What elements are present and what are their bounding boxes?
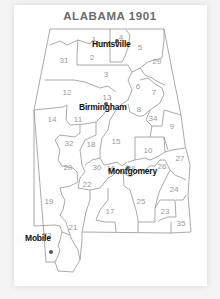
city-label-montgomery: Montgomery: [108, 166, 157, 176]
district-label-27: 27: [176, 154, 185, 163]
district-label-26: 26: [158, 162, 167, 171]
district-label-6: 6: [136, 82, 140, 91]
district-label-31: 31: [60, 56, 69, 65]
district-label-29: 29: [153, 57, 162, 66]
district-label-20: 20: [64, 163, 73, 172]
district-label-13: 13: [103, 93, 112, 102]
district-label-8: 8: [137, 105, 141, 114]
district-label-5: 5: [138, 43, 142, 52]
district-label-25: 25: [137, 197, 146, 206]
district-label-18: 18: [87, 140, 96, 149]
district-label-11: 11: [74, 115, 82, 124]
district-label-7: 7: [152, 88, 156, 97]
district-label-15: 15: [112, 137, 121, 146]
district-label-14: 14: [48, 115, 57, 124]
city-label-birmingham: Birmingham: [79, 102, 127, 112]
city-label-huntsville: Huntsville: [92, 39, 131, 49]
district-label-23: 23: [161, 207, 170, 216]
city-label-mobile: Mobile: [25, 233, 51, 243]
district-label-12: 12: [63, 88, 72, 97]
district-label-24: 24: [170, 185, 179, 194]
district-label-19: 19: [45, 197, 54, 206]
district-label-34: 34: [149, 114, 158, 123]
district-label-22: 22: [83, 180, 92, 189]
district-label-2: 2: [90, 53, 94, 62]
district-label-32: 32: [65, 139, 74, 148]
district-label-35: 35: [177, 219, 186, 228]
district-label-3: 3: [104, 70, 108, 79]
district-label-10: 10: [144, 146, 153, 155]
district-label-21: 21: [69, 223, 78, 232]
district-label-30: 30: [93, 163, 102, 172]
district-label-9: 9: [170, 122, 174, 131]
city-dot-icon: [49, 250, 53, 254]
district-label-17: 17: [106, 207, 115, 216]
